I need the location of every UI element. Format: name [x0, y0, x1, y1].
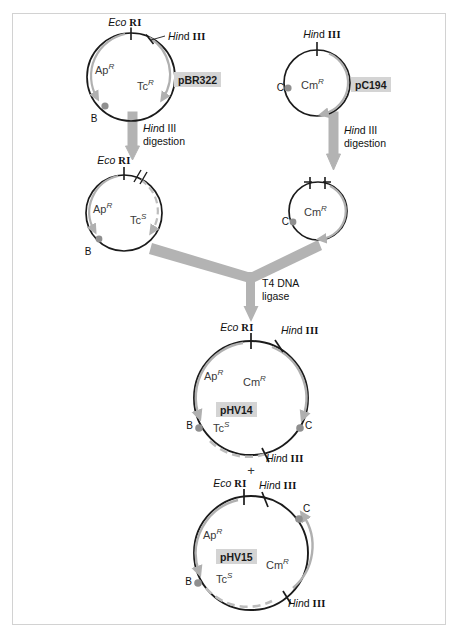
plasmid-phv14	[194, 333, 308, 462]
gene-label-cmr-pc194-cut: CmR	[304, 205, 327, 218]
gene-label-apr-phv14: ApR	[204, 369, 223, 382]
plasmid-name-phv14: pHV14	[216, 399, 257, 417]
step-label-hindiii-digestion-left: Hind III digestion	[143, 122, 185, 148]
step-label-hindiii-digestion-right: Hind III digestion	[344, 124, 386, 150]
flow-arrow-hindiii-left	[126, 112, 140, 160]
site-label-hindiii-top-phv15: Hind III	[259, 480, 297, 492]
plus-symbol: +	[247, 464, 255, 479]
gene-label-apr-pbr322-cut: ApR	[93, 202, 112, 215]
site-label-ecori-phv15: Eco RI	[213, 478, 246, 490]
gene-label-tcr-pbr322: TcR	[137, 79, 154, 92]
site-label-ecori-phv14: Eco RI	[220, 322, 253, 334]
plasmid-name-phv15: pHV15	[216, 546, 257, 564]
gene-label-apr-pbr322: ApR	[95, 63, 114, 76]
flow-arrow-hindiii-right	[327, 112, 341, 170]
marker-label-b-pbr322-cut: B	[85, 246, 92, 257]
gene-label-cmr-phv14: CmR	[243, 375, 266, 388]
plasmid-name-pbr322: pBR322	[174, 69, 221, 87]
site-label-hindiii-pbr322: Hind III	[168, 31, 206, 43]
marker-label-b-phv15: B	[185, 576, 192, 587]
site-label-hindiii-pc194: Hind III	[303, 29, 341, 41]
marker-label-c-phv14: C	[305, 420, 312, 431]
marker-label-c-phv15: C	[303, 503, 310, 514]
gene-label-cmr-phv15: CmR	[266, 558, 289, 571]
site-label-hindiii-bottom-phv15: Hind III	[288, 598, 326, 610]
gene-label-tcs-phv14: TcS	[213, 421, 229, 434]
gene-label-apr-phv15: ApR	[203, 528, 222, 541]
site-label-hindiii-top-phv14: Hind III	[281, 325, 319, 337]
gene-label-cmr-pc194: CmR	[301, 78, 324, 91]
site-label-hindiii-bottom-phv14: Hind III	[266, 453, 304, 465]
pathway-diagram: Eco RI Hind III ApR TcR pBR322 B Hind II…	[0, 0, 459, 641]
gene-label-tcs-phv15: TcS	[216, 572, 232, 585]
step-label-t4-dna-ligase: T4 DNA ligase	[262, 277, 299, 303]
marker-label-b-pbr322: B	[91, 113, 98, 124]
plasmid-name-pc194: pC194	[351, 74, 391, 92]
site-label-ecori-pbr322: Eco RI	[108, 17, 141, 29]
gene-label-tcs-pbr322-cut: TcS	[130, 213, 146, 226]
marker-label-b-phv14: B	[186, 420, 193, 431]
site-label-ecori-pbr322-cut: Eco RI	[97, 155, 130, 167]
marker-label-c-pc194-cut: C	[282, 216, 289, 227]
marker-label-c-pc194: C	[277, 82, 284, 93]
